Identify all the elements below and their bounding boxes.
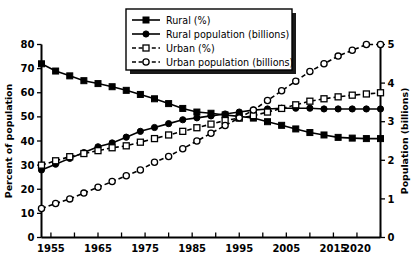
x-tick-label: 1995 xyxy=(225,243,253,254)
data-point-0 xyxy=(363,136,369,142)
y-axis-right-title: Population (billions) xyxy=(399,88,410,194)
legend-marker-1 xyxy=(143,31,149,37)
y-tick-label-right: 5 xyxy=(388,39,395,50)
data-point-2 xyxy=(137,139,143,145)
data-point-0 xyxy=(67,73,73,79)
data-point-3 xyxy=(279,88,285,94)
data-point-2 xyxy=(293,102,299,108)
data-point-3 xyxy=(293,78,299,84)
y-tick-label-left: 80 xyxy=(21,39,35,50)
x-tick-label: 1965 xyxy=(84,243,112,254)
y-axis-left-title: Percent of population xyxy=(3,84,14,199)
legend-marker-3 xyxy=(143,59,149,65)
y-tick-label-left: 60 xyxy=(21,87,35,98)
data-point-1 xyxy=(349,106,355,112)
data-point-3 xyxy=(109,178,115,184)
data-point-3 xyxy=(377,41,383,47)
data-point-3 xyxy=(81,190,87,196)
series-line-2 xyxy=(42,93,381,165)
data-point-3 xyxy=(151,159,157,165)
data-point-3 xyxy=(321,61,327,67)
data-point-0 xyxy=(279,122,285,128)
data-point-3 xyxy=(307,68,313,74)
data-point-1 xyxy=(321,106,327,112)
data-point-1 xyxy=(307,105,313,111)
y-tick-label-right: 2 xyxy=(388,155,395,166)
data-point-0 xyxy=(335,134,341,140)
data-point-3 xyxy=(137,167,143,173)
data-point-2 xyxy=(81,151,87,157)
data-point-0 xyxy=(349,135,355,141)
data-point-0 xyxy=(378,136,384,142)
legend-marker-2 xyxy=(143,45,149,51)
y-tick-label-left: 30 xyxy=(21,160,35,171)
data-point-2 xyxy=(67,154,73,160)
x-tick-label: 1985 xyxy=(178,243,206,254)
data-point-2 xyxy=(152,136,158,142)
legend-label-0: Rural (%) xyxy=(166,15,210,26)
data-point-1 xyxy=(363,106,369,112)
x-tick-label: 1975 xyxy=(131,243,159,254)
data-point-2 xyxy=(349,92,355,98)
data-point-0 xyxy=(321,132,327,138)
data-point-2 xyxy=(166,132,172,138)
data-point-1 xyxy=(137,128,143,134)
data-point-0 xyxy=(194,109,200,115)
legend-label-3: Urban population (billions) xyxy=(166,57,293,68)
x-tick-label: 1955 xyxy=(37,243,65,254)
data-point-0 xyxy=(123,87,129,93)
data-point-0 xyxy=(137,91,143,97)
data-point-2 xyxy=(265,109,271,115)
data-point-1 xyxy=(377,106,383,112)
y-tick-label-left: 70 xyxy=(21,63,35,74)
data-point-2 xyxy=(378,90,384,96)
data-point-1 xyxy=(222,111,228,117)
data-point-3 xyxy=(67,196,73,202)
data-point-2 xyxy=(123,143,129,149)
x-tick-label: 2020 xyxy=(343,243,371,254)
data-point-3 xyxy=(264,97,270,103)
data-point-3 xyxy=(53,200,59,206)
data-point-0 xyxy=(109,84,115,90)
data-point-0 xyxy=(307,130,313,136)
data-point-0 xyxy=(39,61,45,67)
line-chart: 0102030405060708001234519551965197519851… xyxy=(0,0,416,269)
data-point-3 xyxy=(123,173,129,179)
data-point-2 xyxy=(180,128,186,134)
y-tick-label-right: 4 xyxy=(388,78,395,89)
data-point-3 xyxy=(38,205,44,211)
data-point-3 xyxy=(95,184,101,190)
data-point-1 xyxy=(166,121,172,127)
data-point-0 xyxy=(180,105,186,111)
y-tick-label-right: 3 xyxy=(388,116,395,127)
data-point-2 xyxy=(363,91,369,97)
data-point-3 xyxy=(208,130,214,136)
data-point-0 xyxy=(81,78,87,84)
data-point-3 xyxy=(349,47,355,53)
data-point-2 xyxy=(307,98,313,104)
data-point-1 xyxy=(194,115,200,121)
data-point-2 xyxy=(53,158,59,164)
data-point-3 xyxy=(250,107,256,113)
data-point-3 xyxy=(363,41,369,47)
data-point-2 xyxy=(208,121,214,127)
data-point-1 xyxy=(208,113,214,119)
legend-label-2: Urban (%) xyxy=(166,43,215,54)
data-point-2 xyxy=(109,145,115,151)
data-point-3 xyxy=(194,138,200,144)
data-point-2 xyxy=(335,94,341,100)
y-tick-label-left: 0 xyxy=(28,232,35,243)
data-point-3 xyxy=(166,153,172,159)
data-point-3 xyxy=(236,115,242,121)
data-point-2 xyxy=(39,162,45,168)
data-point-0 xyxy=(166,101,172,107)
data-point-3 xyxy=(180,146,186,152)
data-point-0 xyxy=(152,96,158,102)
legend-marker-0 xyxy=(143,17,149,23)
data-point-3 xyxy=(335,53,341,59)
y-tick-label-left: 40 xyxy=(21,136,35,147)
y-tick-label-right: 0 xyxy=(388,232,395,243)
chart-figure: 0102030405060708001234519551965197519851… xyxy=(0,0,416,269)
data-point-0 xyxy=(265,119,271,125)
data-point-2 xyxy=(194,125,200,131)
